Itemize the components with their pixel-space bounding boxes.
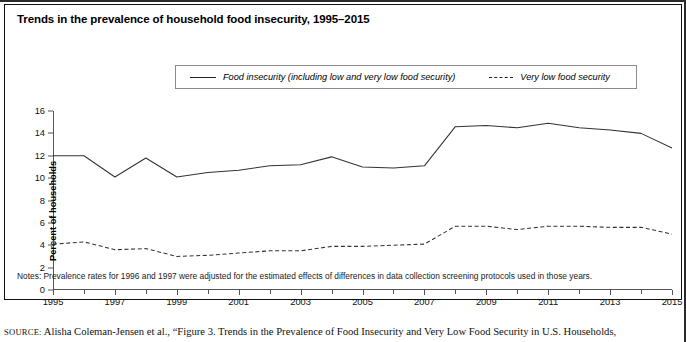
x-axis-tick-mark [610,290,611,295]
x-axis-tick-mark [672,290,673,295]
x-axis-tick-mark [53,290,54,295]
legend-solid-line-icon [190,77,216,78]
x-axis-tick-mark [115,290,116,295]
x-axis-tick-label: 1995 [43,297,64,307]
series-line [53,123,672,177]
x-axis-tick-label: 1999 [166,297,187,307]
x-axis-minor-tick-mark [146,290,147,294]
x-axis-minor-tick-mark [641,290,642,294]
x-axis-tick-label: 1997 [105,297,126,307]
x-axis-tick-mark [486,290,487,295]
x-axis-minor-tick-mark [332,290,333,294]
x-axis-tick-mark [239,290,240,295]
x-axis-minor-tick-mark [393,290,394,294]
page-top-rule [0,0,686,2]
x-axis-tick-mark [301,290,302,295]
x-axis-tick-label: 2001 [228,297,249,307]
figure-container: Trends in the prevalence of household fo… [0,0,686,342]
legend-dashed-line-icon [489,77,513,78]
legend-item-food-insecurity: Food insecurity (including low and very … [190,72,455,82]
x-axis-tick-mark [548,290,549,295]
series-lines [53,111,672,290]
x-axis-tick-label: 2005 [352,297,373,307]
x-axis-tick-label: 2013 [600,297,621,307]
chart-legend: Food insecurity (including low and very … [175,65,637,89]
x-axis-tick-mark [424,290,425,295]
source-text: Alisha Coleman-Jensen et al., “Figure 3.… [44,326,616,337]
x-axis-tick-label: 2015 [662,297,683,307]
x-axis-tick-label: 2011 [538,297,558,307]
legend-label-food-insecurity: Food insecurity (including low and very … [223,72,455,82]
legend-item-very-low-food-security: Very low food security [489,72,610,82]
legend-label-very-low-food-security: Very low food security [520,72,610,82]
x-axis-tick-mark [177,290,178,295]
chart-notes: Notes: Prevalence rates for 1996 and 199… [17,271,592,281]
x-axis-tick-mark [363,290,364,295]
x-axis-minor-tick-mark [517,290,518,294]
x-axis-tick-label: 2009 [476,297,497,307]
series-line [53,226,672,256]
source-label: SOURCE: [4,327,42,337]
chart-panel: Trends in the prevalence of household fo… [4,4,682,300]
x-axis-minor-tick-mark [579,290,580,294]
x-axis-minor-tick-mark [270,290,271,294]
x-axis-tick-label: 2003 [290,297,311,307]
x-axis-tick-label: 2007 [414,297,435,307]
x-axis-minor-tick-mark [208,290,209,294]
x-axis-minor-tick-mark [455,290,456,294]
plot-area: Percent of households 0246810121416 1995… [53,111,672,290]
page-title: Trends in the prevalence of household fo… [17,13,370,25]
chart-source: SOURCE: Alisha Coleman-Jensen et al., “F… [4,326,616,337]
x-axis-minor-tick-mark [84,290,85,294]
